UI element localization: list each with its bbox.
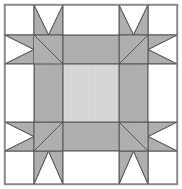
patch-br-white-square [148,151,177,184]
patch-bottom-sashing [63,122,119,151]
patch-bottom-white-bar [63,151,119,184]
patch-left-sashing [34,64,63,122]
patch-right-white-bar [148,64,177,122]
corner-unit-bottom-left [5,122,63,184]
patch-center-square [63,64,119,122]
patch-tr-white-square [148,5,177,35]
corner-unit-top-left [5,5,63,64]
quilt-block-figure [0,0,182,189]
corner-unit-top-right [119,5,177,64]
patch-tl-white-square [5,5,34,35]
patch-right-sashing [119,64,148,122]
patch-top-white-bar [63,5,119,35]
patch-left-white-bar [5,64,34,122]
patch-top-sashing [63,35,119,64]
patch-bl-white-square [5,151,34,184]
corner-unit-bottom-right [119,122,177,184]
quilt-block-svg [0,0,182,189]
